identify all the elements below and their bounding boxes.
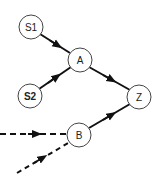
edge-s1-a <box>40 34 70 53</box>
edge-external-lower-left-b <box>17 142 70 173</box>
edge-a-z <box>89 67 130 90</box>
node-a-label: A <box>77 55 84 66</box>
edge-b-z <box>89 104 130 128</box>
graph-diagram: S1 S2 A Z B <box>0 0 165 179</box>
node-z-label: Z <box>136 92 142 103</box>
node-b-label: B <box>76 130 83 141</box>
node-s1-label: S1 <box>25 22 38 33</box>
edge-s2-a <box>39 67 71 89</box>
node-s2: S2 <box>18 84 42 108</box>
node-b: B <box>67 123 91 147</box>
node-s1: S1 <box>19 15 43 39</box>
node-s2-label: S2 <box>24 91 37 102</box>
node-z: Z <box>127 85 151 109</box>
node-a: A <box>68 48 92 72</box>
